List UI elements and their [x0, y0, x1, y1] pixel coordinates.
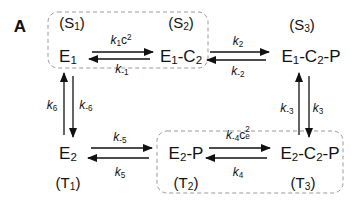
rate-k4: k4	[233, 166, 244, 178]
species-e1-c2: E1-C2	[160, 48, 202, 65]
rate-k3: k3	[313, 102, 324, 114]
rate-k6: k6	[47, 99, 58, 111]
state-label-t2: (T2)	[174, 175, 199, 190]
species-e2-p: E2-P	[169, 145, 204, 162]
species-e2-c2-p: E2-C2-P	[280, 145, 339, 162]
rate-km3: k-3	[280, 102, 293, 114]
panel-label: A	[14, 18, 26, 35]
species-e1-c2-p: E1-C2-P	[281, 48, 340, 65]
rate-km6: k-6	[79, 99, 92, 111]
rate-k2: k2	[233, 35, 244, 47]
state-label-t3: (T3)	[291, 175, 316, 190]
rate-km2: k-2	[231, 65, 244, 77]
state-label-s2: (S2)	[168, 15, 194, 30]
rate-km5: k-5	[113, 131, 126, 143]
state-label-s3: (S3)	[289, 17, 315, 32]
rate-k5: k5	[115, 166, 126, 178]
rate-km4ce2: k-4c2e	[226, 129, 252, 141]
state-label-s1: (S1)	[59, 15, 85, 30]
rate-k1c2: k1c2	[110, 34, 131, 46]
species-e2: E2	[59, 145, 77, 162]
rate-km1: k-1	[115, 63, 128, 75]
state-label-t1: (T1)	[56, 175, 81, 190]
species-e1: E1	[59, 48, 77, 65]
